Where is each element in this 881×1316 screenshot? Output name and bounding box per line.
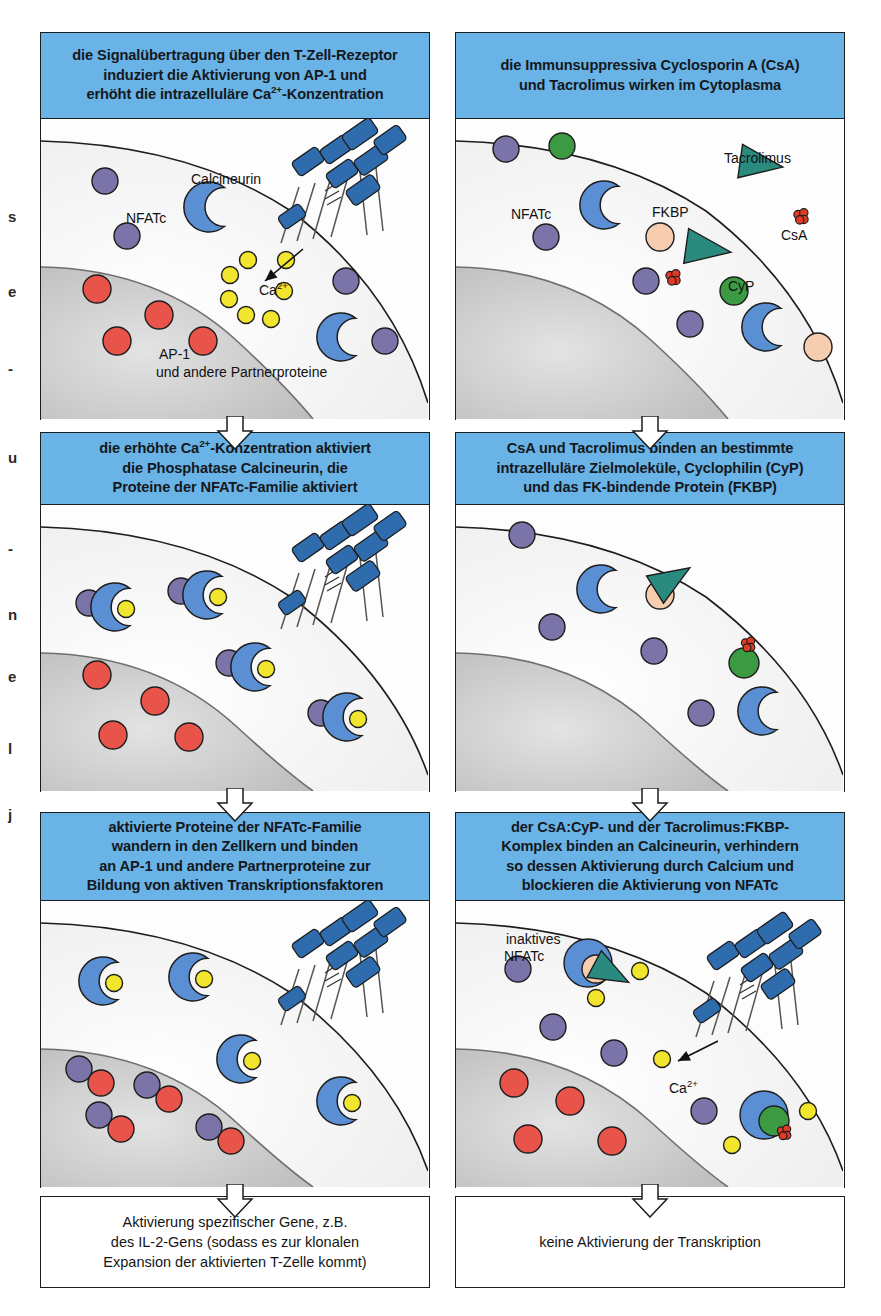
calcium-ion [240,252,257,269]
panel-2: die Immunsuppressiva Cyclosporin A (CsA)… [455,32,845,420]
panel-6-header-line-1: Komplex binden an Calcineurin, verhinder… [501,837,799,857]
calcium-ion [210,589,227,606]
calcium-ion [238,307,255,324]
nfatc-circle [540,1014,566,1040]
edge-char-2: - [8,360,13,377]
panel-5-header-line-3: Bildung von aktiven Transkriptionsfaktor… [87,876,384,896]
nfatc-circle [372,328,398,354]
panel-1-header: die Signalübertragung über den T-Zell-Re… [41,33,429,119]
nfatc-circle [493,136,519,162]
nfatc-circle [134,1072,160,1098]
panel-2-tacrolimus-label: Tacrolimus [724,151,791,166]
panel-1-calcineurin-label: Calcineurin [191,172,261,187]
ap1-circle [556,1087,584,1115]
nfatc-circle [533,224,559,250]
ap1-circle [500,1069,528,1097]
ap1-circle [145,301,173,329]
edge-char-8: j [8,806,12,823]
ap1-circle [156,1086,182,1112]
cyp-circle [549,133,575,159]
nfatc-circle [333,268,359,294]
panel-5-header-line-2: an AP-1 und andere Partnerproteine zur [87,857,384,877]
panel-5-body [41,901,429,1189]
nfatc-circle [641,638,667,664]
panel-1-flow-arrow [216,416,254,450]
edge-char-3: u [8,449,17,466]
panel-2-flow-arrow [631,416,669,450]
panel-2-header-line-1: und Tacrolimus wirken im Cytoplasma [500,76,799,96]
calcium-ion [221,291,238,308]
panel-1-calcium-label: Ca2+ [259,283,288,298]
cyp-circle [729,648,759,678]
panel-4-header-line-2: und das FK-bindende Protein (FKBP) [497,478,804,498]
calcium-ion [344,1095,361,1112]
csa-molecule [666,270,680,285]
ap1-circle [598,1127,626,1155]
ap1-circle [108,1116,134,1142]
panel-1: die Signalübertragung über den T-Zell-Re… [40,32,430,420]
nfatc-circle [66,1056,92,1082]
panel-4-body [456,505,844,793]
panel-3-flow-arrow [216,788,254,822]
panel-5-flow-arrow [216,1184,254,1218]
panel-6-header-line-2: so dessen Aktivierung durch Calcium und [501,857,799,877]
figure-root: se-u-nelj die Signalübertragung über den… [0,0,881,1316]
panel-2-cyp-label: CyP [728,279,754,294]
nfatc-circle [509,522,535,548]
csa-molecule [794,209,808,224]
ap1-circle [99,721,127,749]
edge-char-6: e [8,668,16,685]
nfatc-circle [539,614,565,640]
panel-6-inactive-nfatc-label-2: NFATc [504,949,544,964]
nfatc-circle [92,168,118,194]
panel-4: CsA und Tacrolimus binden an bestimmtein… [455,432,845,792]
nfatc-circle [196,1114,222,1140]
ap1-circle [103,327,131,355]
panel-6-inactive-nfatc-label-1: inaktives [506,932,560,947]
nfatc-circle [677,311,703,337]
panel-1-ap1-label: AP-1 [159,347,190,362]
panel-2-body: TacrolimusNFATcFKBPCsACyP [456,119,844,421]
calcium-ion [654,1051,671,1068]
calcium-ion [350,711,367,728]
conclusion-left-line-2: Expansion der aktivierten T-Zelle kommt) [103,1252,366,1272]
panel-3-header-line-2: Proteine der NFATc-Familie aktiviert [99,478,371,498]
panel-3-body [41,505,429,793]
calcium-ion [106,975,123,992]
ap1-circle [514,1125,542,1153]
calcium-ion [196,971,213,988]
ap1-circle [88,1070,114,1096]
panel-1-nfatc-label: NFATc [126,211,166,226]
panel-1-body: CalcineurinNFATcAP-1und andere Partnerpr… [41,119,429,421]
calcium-ion [632,963,649,980]
panel-3-header-line-1: die Phosphatase Calcineurin, die [99,459,371,479]
panel-2-nfatc-label: NFATc [511,207,551,222]
calcium-ion [222,267,239,284]
panel-5: aktivierte Proteine der NFATc-Familiewan… [40,812,430,1188]
nfatc-circle [633,268,659,294]
edge-char-4: - [8,540,13,557]
calcium-ion [244,1053,261,1070]
panel-3: die erhöhte Ca2+-Konzentration aktiviert… [40,432,430,792]
conclusion-right-line-0: keine Aktivierung der Transkription [539,1232,761,1252]
panel-6-body: inaktivesNFATcCa2+ [456,901,844,1189]
ap1-circle [83,661,111,689]
edge-char-1: e [8,283,16,300]
nfatc-circle [691,1098,717,1124]
panel-6: der CsA:CyP- und der Tacrolimus:FKBP-Kom… [455,812,845,1188]
calcium-ion [800,1103,817,1120]
calcium-ion [588,990,605,1007]
edge-char-5: n [8,606,17,623]
calcium-ion [258,661,275,678]
panel-3-cell-diagram [41,505,428,791]
panel-1-header-line-1: induziert die Aktivierung von AP-1 und [72,66,397,86]
ap1-circle [189,327,217,355]
panel-4-header-line-1: intrazelluläre Zielmoleküle, Cyclophilin… [497,459,804,479]
panel-6-flow-arrow [631,1184,669,1218]
ap1-circle [175,723,203,751]
panel-6-header-line-3: blockieren die Aktivierung von NFATc [501,876,799,896]
panel-1-partner-proteins-label: und andere Partnerproteine [156,365,327,380]
calcium-ion [118,601,135,618]
edge-char-7: l [8,740,12,757]
nfatc-circle [688,700,714,726]
